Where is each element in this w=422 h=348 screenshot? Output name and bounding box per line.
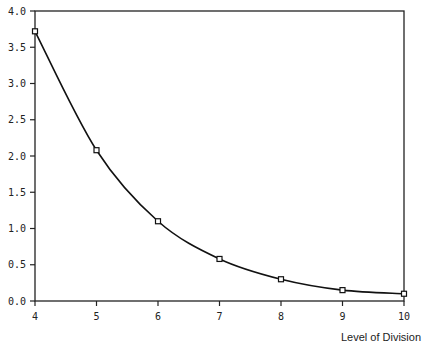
square-marker-icon <box>94 148 99 153</box>
y-tick-label: 1.5 <box>8 187 26 198</box>
x-tick-label: 7 <box>216 311 222 322</box>
square-marker-icon <box>33 29 38 34</box>
square-marker-icon <box>279 277 284 282</box>
x-tick-label: 5 <box>93 311 99 322</box>
x-tick-label: 10 <box>398 311 410 322</box>
y-tick-label: 3.5 <box>8 42 26 53</box>
square-marker-icon <box>340 288 345 293</box>
y-tick-label: 1.0 <box>8 223 26 234</box>
x-tick-label: 4 <box>32 311 38 322</box>
x-tick-label: 8 <box>278 311 284 322</box>
y-tick-label: 3.0 <box>8 78 26 89</box>
line-chart: 0.00.51.01.52.02.53.03.54.0 45678910 Lev… <box>0 0 422 348</box>
data-line <box>35 31 404 293</box>
x-tick-label: 6 <box>155 311 161 322</box>
y-tick-label: 2.0 <box>8 151 26 162</box>
y-tick-label: 0.5 <box>8 259 26 270</box>
y-tick-label: 2.5 <box>8 114 26 125</box>
y-axis: 0.00.51.01.52.02.53.03.54.0 <box>8 6 35 307</box>
square-marker-icon <box>156 219 161 224</box>
y-tick-label: 4.0 <box>8 6 26 17</box>
square-marker-icon <box>402 291 407 296</box>
y-tick-label: 0.0 <box>8 296 26 307</box>
square-marker-icon <box>217 256 222 261</box>
data-markers <box>33 29 407 296</box>
x-tick-label: 9 <box>339 311 345 322</box>
x-axis: 45678910 <box>32 301 410 322</box>
x-axis-label: Level of Division <box>341 331 421 343</box>
